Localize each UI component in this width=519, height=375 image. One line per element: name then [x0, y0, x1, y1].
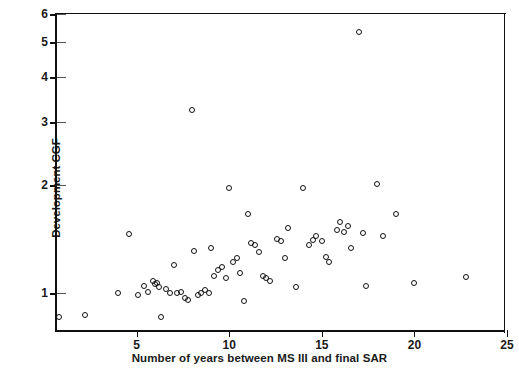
y-tick-mark [50, 185, 57, 187]
data-point [285, 225, 291, 231]
y-tick-mark [50, 122, 57, 124]
y-tick-inner-mark [57, 14, 66, 15]
data-point [306, 242, 312, 248]
data-point [206, 290, 212, 296]
scatter-chart-figure: Development CGF 123456 510152025 Number … [0, 0, 519, 375]
x-tick-label: 5 [133, 339, 140, 351]
data-point [145, 289, 151, 295]
data-point [171, 262, 177, 268]
y-tick-label: 6 [41, 8, 48, 20]
data-point [234, 255, 240, 261]
data-point [211, 273, 217, 279]
data-point [185, 297, 191, 303]
data-point [345, 223, 351, 229]
data-point [135, 292, 141, 298]
data-point [300, 185, 306, 191]
data-point [282, 255, 288, 261]
x-tick-mark [414, 330, 415, 337]
data-point [126, 231, 132, 237]
data-point [245, 211, 251, 217]
data-point [178, 289, 184, 295]
data-point [208, 245, 214, 251]
data-point [226, 185, 232, 191]
x-axis-ticks: 510152025 [57, 330, 505, 331]
x-tick-label: 10 [223, 339, 236, 351]
data-point [252, 242, 258, 248]
x-tick-label: 20 [408, 339, 421, 351]
data-point [360, 230, 366, 236]
data-point [267, 278, 273, 284]
y-tick-inner-mark [57, 77, 66, 78]
plot-area: 123456 510152025 [55, 14, 505, 332]
data-point [393, 211, 399, 217]
data-point [167, 290, 173, 296]
data-point [293, 284, 299, 290]
data-point [241, 298, 247, 304]
y-tick-label: 5 [41, 36, 48, 48]
data-point [115, 290, 121, 296]
x-tick-label: 15 [315, 339, 328, 351]
y-tick-mark [50, 77, 57, 79]
data-point [189, 107, 195, 113]
y-tick-mark [50, 14, 57, 16]
data-point [319, 238, 325, 244]
y-tick-mark [50, 42, 57, 44]
x-tick-mark [137, 330, 138, 337]
data-point [141, 283, 147, 289]
y-tick-inner-mark [57, 42, 66, 43]
y-tick-mark [50, 293, 57, 295]
data-point [313, 233, 319, 239]
data-point [219, 264, 225, 270]
data-point [191, 248, 197, 254]
data-point [380, 233, 386, 239]
data-point [156, 284, 162, 290]
x-axis-title: Number of years between MS III and final… [0, 352, 519, 364]
data-point [374, 181, 380, 187]
y-tick-label: 1 [41, 287, 48, 299]
x-tick-mark [229, 330, 230, 337]
data-point [341, 229, 347, 235]
data-point [56, 314, 62, 320]
data-point [363, 283, 369, 289]
y-tick-label: 4 [41, 71, 48, 83]
data-point [158, 314, 164, 320]
data-point [82, 312, 88, 318]
y-tick-inner-mark [57, 185, 66, 186]
y-tick-inner-mark [57, 293, 66, 294]
y-tick-label: 3 [41, 116, 48, 128]
y-tick-label: 2 [41, 179, 48, 191]
data-point [237, 270, 243, 276]
y-tick-inner-mark [57, 122, 66, 123]
data-point [348, 245, 354, 251]
data-point [256, 249, 262, 255]
data-point [334, 227, 340, 233]
data-point [356, 29, 362, 35]
x-tick-mark [507, 330, 508, 337]
data-point [326, 259, 332, 265]
data-point [223, 275, 229, 281]
x-tick-label: 25 [500, 339, 513, 351]
x-tick-mark [322, 330, 323, 337]
data-point [463, 274, 469, 280]
data-point [278, 238, 284, 244]
data-point [411, 280, 417, 286]
data-point [337, 219, 343, 225]
